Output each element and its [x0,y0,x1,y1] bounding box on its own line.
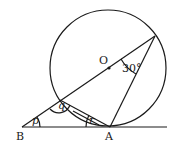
label-angle-q: q [58,99,65,112]
label-angle-p: p [32,114,39,127]
label-A: A [104,130,114,143]
label-O: O [99,54,108,67]
label-angle-r: r [89,114,95,127]
chord-CA [60,100,110,127]
label-angle-30: 30° [122,62,142,75]
label-B: B [16,130,24,143]
chord-DA [110,36,155,127]
geometry-diagram: O B A p q r 30° [0,0,175,145]
